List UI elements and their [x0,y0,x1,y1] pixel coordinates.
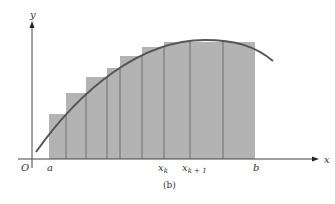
xk-subscript: k [164,167,168,175]
x-axis-label: x [324,154,330,165]
tick-label-xk: xk [158,162,168,175]
x-axis-arrow-icon [312,157,319,162]
riemann-rectangle [190,42,223,159]
riemann-rectangle [49,114,66,159]
tick-label-a: a [47,162,53,173]
origin-label: O [21,162,29,173]
tick-label-xk1: xk + 1 [182,162,207,175]
riemann-rectangle [86,77,107,159]
y-axis-label: y [29,9,36,20]
riemann-rectangle [142,47,164,159]
riemann-rectangle [120,56,142,159]
riemann-sum-diagram: y x O a xk xk + 1 b (b) [0,0,335,204]
tick-label-b: b [253,162,259,173]
xk1-subscript: k + 1 [188,167,207,175]
riemann-rectangle [107,68,120,159]
y-axis-arrow-icon [30,21,35,28]
figure-caption: (b) [163,180,176,190]
riemann-rectangle [223,42,255,159]
riemann-rectangle [164,42,190,159]
